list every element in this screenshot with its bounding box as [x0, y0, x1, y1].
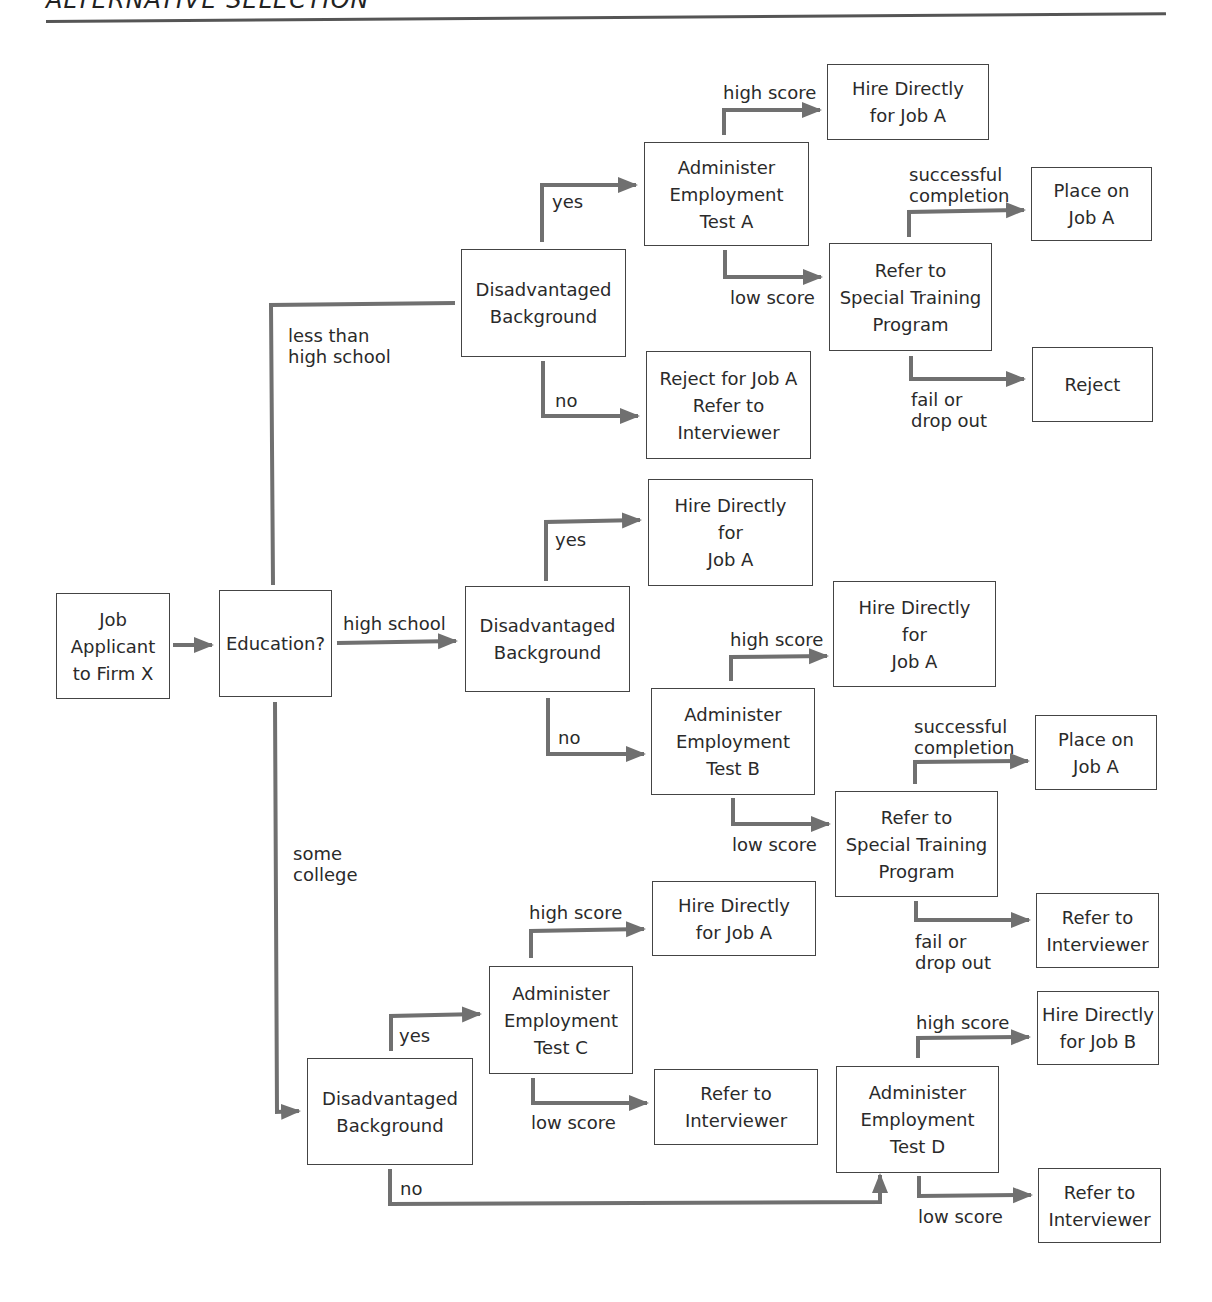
arrow-training-top-success [909, 210, 1024, 237]
label-test-c-high: high score [529, 902, 622, 923]
label-training-mid-success: successful completion [914, 716, 1014, 758]
node-reject: Reject [1032, 347, 1153, 422]
label-training-mid-fail: fail or drop out [915, 931, 991, 973]
node-hire-job-a-hs-yes: Hire Directly for Job A [648, 479, 813, 586]
arrow-training-mid-fail [916, 901, 1029, 920]
arrow-college-no [390, 1169, 880, 1204]
node-test-a: Administer Employment Test A [644, 142, 809, 246]
node-refer-interviewer-mid: Refer to Interviewer [1036, 893, 1159, 968]
label-college-yes: yes [399, 1025, 430, 1046]
label-hs-no: no [558, 727, 580, 748]
node-place-job-a-top: Place on Job A [1031, 167, 1152, 241]
node-place-job-a-mid: Place on Job A [1035, 715, 1157, 790]
node-training-mid: Refer to Special Training Program [835, 791, 998, 897]
node-hire-job-a-test-c: Hire Directly for Job A [652, 881, 816, 956]
arrow-test-c-low [533, 1078, 647, 1103]
arrow-test-d-low [919, 1176, 1031, 1196]
label-test-b-high: high score [730, 629, 823, 650]
arrow-test-d-high [918, 1037, 1029, 1058]
node-training-top: Refer to Special Training Program [829, 243, 992, 351]
node-disadvantaged-lths: Disadvantaged Background [461, 249, 626, 357]
label-test-b-low: low score [732, 834, 817, 855]
arrow-test-a-low [725, 250, 821, 277]
node-reject-refer-interviewer: Reject for Job A Refer to Interviewer [646, 351, 811, 459]
node-job-applicant: Job Applicant to Firm X [56, 593, 170, 699]
label-test-a-high: high score [723, 82, 816, 103]
label-lths-no: no [555, 390, 577, 411]
label-hs-yes: yes [555, 529, 586, 550]
node-disadvantaged-college: Disadvantaged Background [307, 1058, 473, 1165]
label-college-no: no [400, 1178, 422, 1199]
label-test-d-low: low score [918, 1206, 1003, 1227]
label-test-a-low: low score [730, 287, 815, 308]
node-refer-interviewer-c: Refer to Interviewer [654, 1069, 818, 1145]
arrow-education-hs [337, 641, 456, 643]
node-hire-job-b: Hire Directly for Job B [1037, 991, 1159, 1065]
node-test-b: Administer Employment Test B [651, 688, 815, 795]
node-test-c: Administer Employment Test C [489, 966, 633, 1074]
label-high-school: high school [343, 613, 446, 634]
node-education-decision: Education? [219, 590, 332, 697]
node-hire-job-a-test-b: Hire Directly for Job A [833, 581, 996, 687]
arrow-test-b-low [733, 798, 829, 824]
label-lths-yes: yes [552, 191, 583, 212]
node-hire-job-a-test-a: Hire Directly for Job A [827, 64, 989, 140]
label-less-than-high-school: less than high school [288, 325, 391, 367]
arrow-training-mid-success [915, 761, 1028, 784]
node-test-d: Administer Employment Test D [836, 1066, 999, 1173]
label-some-college: some college [293, 843, 358, 885]
label-test-c-low: low score [531, 1112, 616, 1133]
label-training-top-fail: fail or drop out [911, 389, 987, 431]
arrow-test-b-high [731, 656, 827, 681]
arrow-test-a-high [724, 110, 820, 135]
label-test-d-high: high score [916, 1012, 1009, 1033]
node-disadvantaged-hs: Disadvantaged Background [465, 586, 630, 692]
label-training-top-success: successful completion [909, 164, 1009, 206]
arrow-training-top-fail [911, 356, 1024, 379]
arrow-test-c-high [531, 929, 644, 958]
arrow-education-college [275, 702, 299, 1112]
node-refer-interviewer-d: Refer to Interviewer [1038, 1168, 1161, 1243]
